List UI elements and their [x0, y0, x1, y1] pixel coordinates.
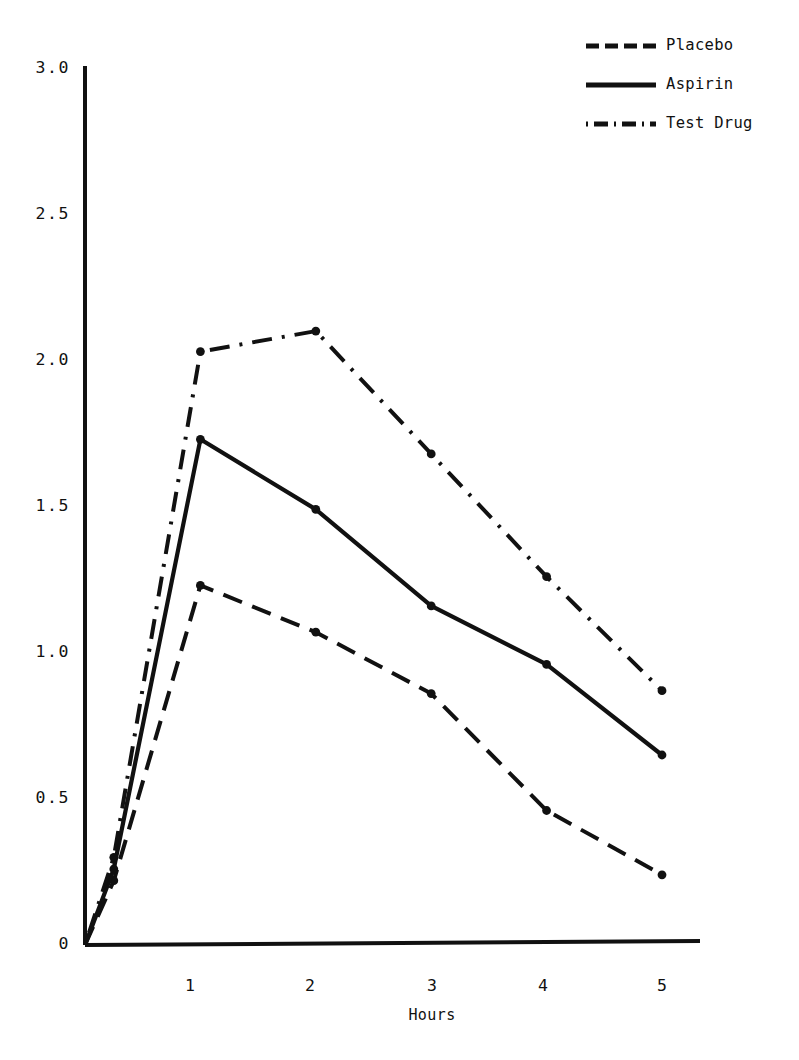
- data-point-marker: [542, 806, 551, 815]
- x-axis-title: Hours: [372, 1008, 492, 1023]
- line-chart-figure: 3.0 2.5 2.0 1.5 1.0 0.5 0 1 2 3 4 5 Hour…: [0, 0, 799, 1060]
- x-tick-label: 3: [412, 978, 452, 995]
- y-tick-label: 3.0: [18, 60, 70, 77]
- y-tick-label: 2.5: [18, 206, 70, 223]
- x-tick-label: 5: [642, 978, 682, 995]
- series-line-aspirin: [85, 439, 662, 945]
- data-point-marker: [311, 628, 320, 637]
- legend-line-sample-dashdot: [585, 118, 657, 130]
- legend-label-aspirin: Aspirin: [666, 77, 733, 93]
- data-point-marker: [196, 435, 205, 444]
- x-tick-label: 4: [523, 978, 563, 995]
- chart-legend: Placebo Aspirin Test Drug: [585, 26, 799, 143]
- data-point-marker: [311, 327, 320, 336]
- data-point-marker: [658, 870, 667, 879]
- series-line-test-drug: [85, 331, 662, 945]
- y-tick-label: 0: [18, 936, 70, 953]
- x-axis-line: [85, 941, 700, 945]
- series-line-placebo: [85, 585, 662, 945]
- plot-area: [0, 0, 799, 1060]
- legend-label-test-drug: Test Drug: [666, 116, 753, 132]
- data-point-marker: [658, 686, 667, 695]
- data-point-marker: [658, 751, 667, 760]
- legend-item-placebo: Placebo: [585, 26, 799, 65]
- y-tick-label: 1.5: [18, 498, 70, 515]
- y-tick-label: 1.0: [18, 644, 70, 661]
- data-point-marker: [311, 505, 320, 514]
- data-point-marker: [109, 853, 118, 862]
- data-point-marker: [427, 689, 436, 698]
- legend-item-aspirin: Aspirin: [585, 65, 799, 104]
- data-point-marker: [196, 581, 205, 590]
- data-point-marker: [109, 865, 118, 874]
- data-point-marker: [196, 347, 205, 356]
- y-tick-label: 0.5: [18, 790, 70, 807]
- legend-item-test-drug: Test Drug: [585, 104, 799, 143]
- data-series-group: [85, 327, 666, 945]
- data-point-marker: [542, 660, 551, 669]
- axis-lines: [85, 66, 700, 945]
- legend-line-sample-solid: [585, 79, 657, 91]
- y-tick-label: 2.0: [18, 352, 70, 369]
- x-tick-label: 2: [290, 978, 330, 995]
- data-point-marker: [542, 572, 551, 581]
- legend-line-sample-dashed: [585, 40, 657, 52]
- data-point-marker: [427, 602, 436, 611]
- x-tick-label: 1: [170, 978, 210, 995]
- data-point-marker: [427, 450, 436, 459]
- legend-label-placebo: Placebo: [666, 38, 733, 54]
